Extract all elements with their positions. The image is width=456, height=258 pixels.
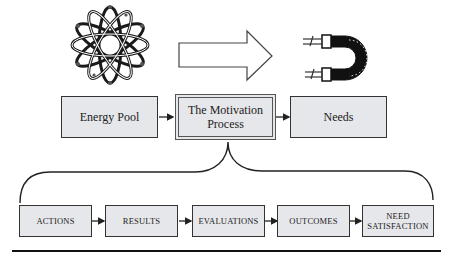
need-satisfaction-label-line2: SATISFACTION — [367, 221, 428, 231]
need-satisfaction-box: NEED SATISFACTION — [362, 205, 434, 237]
atom-icon — [72, 5, 149, 85]
needs-box: Needs — [290, 96, 387, 138]
motivation-process-box: The Motivation Process — [175, 94, 276, 140]
actions-box: ACTIONS — [19, 205, 92, 237]
motivation-process-label-line2: Process — [188, 117, 263, 131]
results-label: RESULTS — [123, 216, 160, 226]
results-box: RESULTS — [105, 205, 178, 237]
energy-pool-box: Energy Pool — [61, 96, 158, 138]
outcomes-box: OUTCOMES — [277, 205, 350, 237]
evaluations-label: EVALUATIONS — [198, 216, 258, 226]
horseshoe-magnet-icon — [303, 35, 367, 81]
outcomes-label: OUTCOMES — [289, 216, 337, 226]
motivation-process-label-line1: The Motivation — [188, 103, 263, 117]
needs-label: Needs — [324, 110, 354, 124]
curly-brace — [20, 142, 433, 203]
evaluations-box: EVALUATIONS — [192, 205, 265, 237]
right-arrow-icon — [179, 31, 272, 80]
need-satisfaction-label-line1: NEED — [367, 211, 428, 221]
energy-pool-label: Energy Pool — [80, 110, 139, 124]
actions-label: ACTIONS — [36, 216, 74, 226]
